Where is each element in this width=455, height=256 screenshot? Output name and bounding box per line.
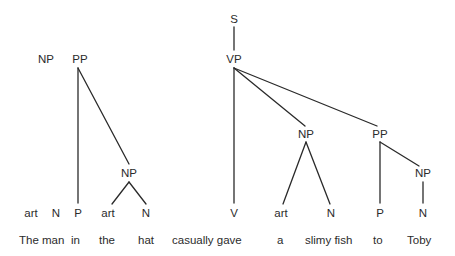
category-p: P <box>376 207 384 219</box>
word-slimy-fish: slimy fish <box>305 234 352 246</box>
edge-np-n <box>129 182 146 204</box>
category-v: V <box>230 207 238 219</box>
word-casually-gave: casually gave <box>172 234 242 246</box>
category-art: art <box>101 207 114 219</box>
node-vp: VP <box>226 53 241 65</box>
category-n: N <box>419 207 427 219</box>
edge-np-art-obj <box>283 142 306 204</box>
word-toby: Toby <box>407 234 431 246</box>
node-np-toby: NP <box>415 167 431 179</box>
edge-pp-np-to <box>380 142 419 166</box>
node-np-subject: NP <box>38 53 54 65</box>
node-pp-subject: PP <box>72 53 87 65</box>
edge-np-art <box>112 182 129 204</box>
word-a: a <box>277 234 283 246</box>
category-n: N <box>52 207 60 219</box>
node-pp-to: PP <box>372 128 387 140</box>
word-to: to <box>373 234 383 246</box>
category-art: art <box>24 207 37 219</box>
word-the: the <box>99 234 115 246</box>
category-p: P <box>74 207 82 219</box>
node-s: S <box>230 13 238 25</box>
edge-vp-pp <box>234 68 377 126</box>
category-art: art <box>274 207 287 219</box>
syntax-tree-diagram: S VP NP PP NP NP PP NP art N P art N V a… <box>0 0 455 256</box>
edge-pp-np <box>78 68 129 164</box>
edge-vp-np <box>234 68 305 126</box>
word-in: in <box>71 234 80 246</box>
edge-np-n-obj <box>306 142 330 204</box>
word-the-man: The man <box>19 234 64 246</box>
node-np-object: NP <box>298 128 314 140</box>
node-np-in: NP <box>121 167 137 179</box>
category-n: N <box>327 207 335 219</box>
word-hat: hat <box>138 234 154 246</box>
category-n: N <box>142 207 150 219</box>
